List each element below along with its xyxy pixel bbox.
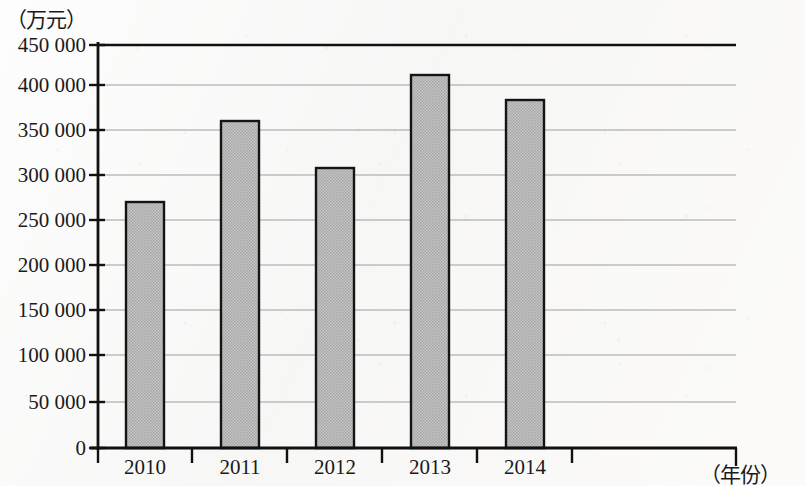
bar-2014 — [506, 100, 544, 448]
chart-canvas — [0, 0, 805, 486]
bar-2011 — [221, 121, 259, 448]
bar-2012 — [316, 168, 354, 448]
bar-2010 — [126, 202, 164, 448]
bars — [126, 75, 544, 448]
x-axis-ticks — [98, 448, 736, 466]
bar-2013 — [411, 75, 449, 448]
bar-chart: （万元） （年份） 450 000 400 000 350 000 300 00… — [0, 0, 805, 486]
